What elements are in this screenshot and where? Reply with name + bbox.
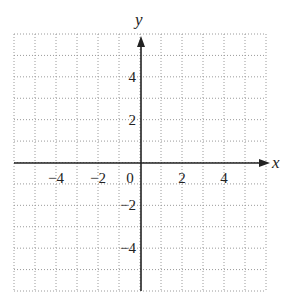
y-tick-label: −2	[120, 197, 136, 213]
x-axis-arrow-icon	[259, 159, 270, 167]
x-tick-labels: −4−2024	[48, 170, 228, 186]
coordinate-plane: x y −4−2024 42−2−4	[0, 0, 286, 296]
y-axis-arrow-icon	[137, 36, 145, 47]
y-tick-label: 2	[129, 112, 137, 128]
x-tick-label: −4	[48, 170, 64, 186]
x-tick-label: 0	[126, 170, 134, 186]
x-axis-label: x	[271, 153, 280, 172]
x-tick-label: −2	[90, 170, 106, 186]
x-tick-label: 2	[178, 170, 186, 186]
x-tick-label: 4	[220, 170, 228, 186]
y-tick-label: 4	[129, 69, 137, 85]
y-tick-label: −4	[120, 240, 136, 256]
axes	[14, 36, 270, 291]
y-axis-label: y	[133, 10, 143, 29]
